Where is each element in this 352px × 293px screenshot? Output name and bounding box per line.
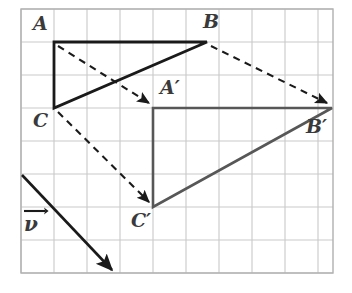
grid-lines [21,9,333,273]
mapping-arrows [58,46,327,202]
point-label-C: C [33,111,48,130]
diagram-canvas: A B C A′ B′ C′ ν [0,0,352,293]
point-label-B: B [203,12,219,31]
point-label-A: A [33,14,48,33]
vector-label-v: ν [24,214,38,234]
translation-diagram-svg [0,0,352,293]
point-label-A-prime: A′ [160,78,180,97]
arrow-C-to-C-prime [58,112,149,202]
point-label-C-prime: C′ [131,211,151,230]
point-label-B-prime: B′ [306,117,327,136]
